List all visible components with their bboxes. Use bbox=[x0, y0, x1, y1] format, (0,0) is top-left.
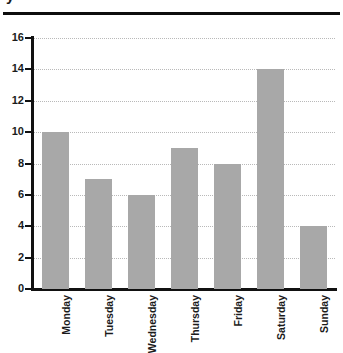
y-axis-tick bbox=[25, 257, 32, 259]
y-axis-label: 8 bbox=[18, 158, 24, 169]
x-axis-label: Wednesday bbox=[147, 295, 158, 353]
y-axis-tick bbox=[25, 163, 32, 165]
bar[interactable] bbox=[300, 226, 327, 289]
bar[interactable] bbox=[85, 179, 112, 289]
y-axis-label: 16 bbox=[12, 32, 24, 43]
bar[interactable] bbox=[214, 164, 241, 290]
y-axis-label: 12 bbox=[12, 95, 24, 106]
y-axis-label: 4 bbox=[18, 220, 24, 231]
y-axis-tick bbox=[25, 100, 32, 102]
x-axis-label: Saturday bbox=[276, 295, 287, 340]
y-axis-label: 6 bbox=[18, 189, 24, 200]
y-axis-tick bbox=[25, 194, 32, 196]
x-axis-label: Friday bbox=[233, 295, 244, 327]
bar[interactable] bbox=[128, 195, 155, 289]
x-axis-label: Thursday bbox=[190, 295, 201, 342]
y-axis-tick bbox=[25, 68, 32, 70]
y-axis-label: 0 bbox=[18, 283, 24, 294]
y-axis-label: 14 bbox=[12, 63, 24, 74]
y-axis-tick bbox=[25, 225, 32, 227]
y-axis-label: 10 bbox=[12, 126, 24, 137]
y-axis-tick bbox=[25, 288, 32, 290]
bar[interactable] bbox=[42, 132, 69, 289]
plot-area: 0246810121416MondayTuesdayWednesdayThurs… bbox=[0, 0, 343, 353]
gridline bbox=[34, 38, 335, 39]
gridline bbox=[34, 69, 335, 70]
gridline bbox=[34, 101, 335, 102]
gridline bbox=[34, 132, 335, 133]
x-axis-label: Monday bbox=[61, 295, 72, 335]
bar[interactable] bbox=[257, 69, 284, 289]
bar[interactable] bbox=[171, 148, 198, 289]
x-axis-label: Sunday bbox=[319, 295, 330, 333]
y-axis-tick bbox=[25, 37, 32, 39]
bar-chart-figure: y 0246810121416MondayTuesdayWednesdayThu… bbox=[0, 0, 343, 353]
y-axis-label: 2 bbox=[18, 252, 24, 263]
x-axis-label: Tuesday bbox=[104, 295, 115, 337]
y-axis-tick bbox=[25, 131, 32, 133]
